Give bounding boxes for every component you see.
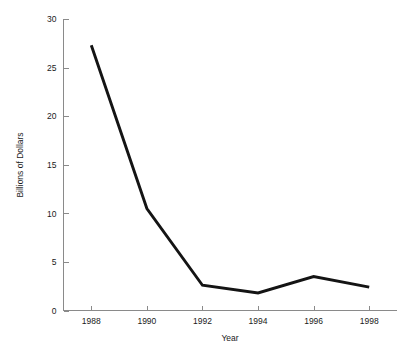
- y-tick-label: 20: [47, 111, 57, 121]
- y-tick-label: 30: [47, 14, 57, 24]
- y-tick-label: 25: [47, 63, 57, 73]
- x-tick-label: 1996: [304, 316, 323, 326]
- y-axis-title: Billions of Dollars: [15, 132, 25, 197]
- x-tick-label: 1998: [360, 316, 379, 326]
- chart-background: [0, 0, 403, 357]
- y-tick-label: 0: [52, 306, 57, 316]
- y-tick-label: 15: [47, 160, 57, 170]
- x-axis-title: Year: [221, 333, 238, 343]
- line-chart: 051015202530 198819901992199419961998 Ye…: [0, 0, 403, 357]
- x-tick-label: 1992: [193, 316, 212, 326]
- y-tick-label: 5: [52, 257, 57, 267]
- x-tick-label: 1988: [82, 316, 101, 326]
- y-tick-label: 10: [47, 209, 57, 219]
- chart-figure: 051015202530 198819901992199419961998 Ye…: [0, 0, 403, 357]
- x-tick-label: 1994: [249, 316, 268, 326]
- x-tick-label: 1990: [137, 316, 156, 326]
